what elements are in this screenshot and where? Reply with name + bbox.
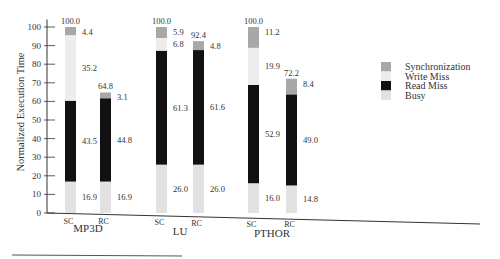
- segment-value-label: 61.6: [210, 102, 225, 112]
- y-tick-label: 40: [32, 134, 42, 144]
- segment-value-label: 11.2: [265, 27, 280, 37]
- bars: 16.943.535.24.4100.016.944.83.164.826.06…: [61, 16, 318, 213]
- segment-value-label: 4.4: [82, 27, 93, 37]
- bar-mp3d-sc: 16.943.535.24.4100.0: [61, 16, 97, 213]
- bar-lu-rc: 26.061.64.892.4: [191, 30, 225, 213]
- bar-lu-sc: 26.061.36.85.9100.0: [152, 16, 188, 213]
- segment-value-label: 26.0: [210, 184, 225, 194]
- y-axis-title: Normalized Execution Time: [15, 52, 26, 171]
- segment-value-label: 5.9: [173, 27, 184, 37]
- stacked-bar-chart: Normalized Execution Time 01020304050607…: [0, 0, 500, 259]
- y-tick-label: 50: [32, 115, 42, 125]
- bar-total-label: 100.0: [61, 16, 80, 26]
- segment-busy: [193, 165, 204, 213]
- segment-value-label: 16.9: [82, 192, 97, 202]
- segment-sync: [100, 92, 111, 98]
- bar-total-label: 72.2: [284, 68, 299, 78]
- segment-busy: [100, 182, 111, 213]
- y-tick-label: 100: [28, 22, 42, 32]
- segment-value-label: 4.8: [210, 41, 221, 51]
- segment-read: [156, 51, 167, 165]
- segment-value-label: 52.9: [265, 129, 280, 139]
- segment-busy: [286, 185, 297, 213]
- y-tick-label: 20: [32, 171, 42, 181]
- segment-read: [286, 94, 297, 185]
- segment-read: [193, 50, 204, 165]
- legend-swatch-read-miss: [381, 81, 391, 91]
- segment-read: [248, 85, 259, 183]
- segment-value-label: 49.0: [303, 135, 318, 145]
- bar-total-label: 92.4: [191, 30, 207, 40]
- legend-swatch-busy: [381, 91, 391, 101]
- x-tick-label: RC: [191, 219, 202, 228]
- segment-sync: [156, 27, 167, 38]
- legend-swatch-synchronization: [381, 62, 391, 72]
- segment-sync: [248, 27, 259, 48]
- segment-busy: [156, 165, 167, 213]
- y-tick-label: 90: [32, 41, 42, 51]
- segment-busy: [248, 183, 259, 213]
- group-label: LU: [173, 225, 188, 237]
- legend: SynchronizationWrite MissRead MissBusy: [381, 61, 471, 101]
- bar-pthor-sc: 16.052.919.911.2100.0: [244, 16, 280, 213]
- segment-sync: [65, 27, 76, 35]
- group-label: PTHOR: [254, 227, 291, 239]
- segment-write: [65, 35, 76, 100]
- y-tick-label: 70: [32, 78, 42, 88]
- x-tick-label: SC: [64, 217, 74, 226]
- legend-swatch-write-miss: [381, 72, 391, 82]
- segment-value-label: 16.0: [265, 193, 280, 203]
- segment-read: [100, 98, 111, 181]
- y-tick-label: 10: [32, 189, 42, 199]
- segment-value-label: 61.3: [173, 103, 188, 113]
- bar-total-label: 100.0: [152, 16, 171, 26]
- x-axis-line: [47, 213, 480, 224]
- segment-read: [65, 101, 76, 182]
- segment-value-label: 44.8: [117, 135, 132, 145]
- bar-mp3d-rc: 16.944.83.164.8: [98, 81, 132, 213]
- y-tick-label: 30: [32, 152, 42, 162]
- bar-total-label: 64.8: [98, 81, 113, 91]
- separator-rule: [12, 255, 182, 256]
- bar-pthor-rc: 14.849.08.472.2: [284, 68, 318, 213]
- y-tick-label: 60: [32, 96, 42, 106]
- segment-value-label: 6.8: [173, 39, 184, 49]
- y-axis: 0102030405060708090100: [28, 20, 56, 218]
- segment-write: [248, 48, 259, 85]
- segment-busy: [65, 182, 76, 213]
- y-tick-label: 0: [37, 208, 42, 218]
- segment-value-label: 19.9: [265, 61, 280, 71]
- segment-sync: [193, 41, 204, 50]
- segment-value-label: 43.5: [82, 136, 97, 146]
- x-axis-labels: SCRCSCRCSCRCMP3DLUPTHOR: [64, 217, 295, 239]
- legend-label: Busy: [405, 90, 426, 101]
- x-tick-label: SC: [155, 218, 165, 227]
- segment-value-label: 16.9: [117, 192, 132, 202]
- y-tick-label: 80: [32, 59, 42, 69]
- segment-value-label: 8.4: [303, 79, 314, 89]
- group-label: MP3D: [73, 222, 102, 234]
- segment-value-label: 26.0: [173, 184, 188, 194]
- segment-value-label: 3.1: [117, 92, 128, 102]
- segment-write: [156, 38, 167, 51]
- bar-total-label: 100.0: [244, 16, 263, 26]
- segment-value-label: 14.8: [303, 194, 318, 204]
- segment-sync: [286, 79, 297, 95]
- segment-value-label: 35.2: [82, 63, 97, 73]
